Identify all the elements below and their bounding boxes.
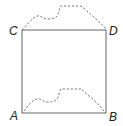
- label-b: B: [109, 110, 117, 124]
- bottom-dashed-curve: [24, 89, 104, 111]
- label-a: A: [9, 109, 18, 123]
- square-abcd: [22, 30, 106, 113]
- top-dashed-curve: [22, 6, 106, 30]
- square-diagram: C D A B: [0, 0, 123, 126]
- label-c: C: [9, 24, 18, 38]
- label-d: D: [109, 24, 118, 38]
